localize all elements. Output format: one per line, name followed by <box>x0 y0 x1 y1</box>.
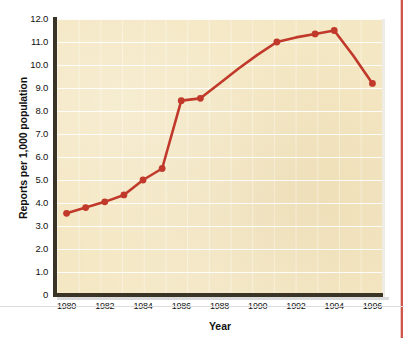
y-tick-label: 1.0 <box>8 266 48 277</box>
y-tick-label: 10.0 <box>8 59 48 70</box>
y-tick-label: 12.0 <box>8 13 48 24</box>
data-series-layer <box>57 19 382 295</box>
y-tick-label: 11.0 <box>8 36 48 47</box>
y-tick-label: 9.0 <box>8 82 48 93</box>
y-tick-label: 6.0 <box>8 151 48 162</box>
plot-area <box>57 19 382 295</box>
y-tick-label: 4.0 <box>8 197 48 208</box>
chart-figure: Reports per 1,000 population Year 12.011… <box>0 0 404 338</box>
chart-title-ghost <box>150 0 360 7</box>
data-point <box>331 27 338 34</box>
data-point <box>121 192 128 199</box>
y-tick-label: 8.0 <box>8 105 48 116</box>
plot-right-shadow <box>382 19 385 297</box>
data-point <box>140 177 147 184</box>
y-tick-label: 5.0 <box>8 174 48 185</box>
y-tick-label: 7.0 <box>8 128 48 139</box>
page-edge-rule-secondary <box>400 0 401 338</box>
data-point <box>312 31 319 38</box>
page-edge-rule <box>401 0 403 338</box>
data-point <box>197 95 204 102</box>
series-line <box>67 31 373 214</box>
data-point <box>273 39 280 46</box>
x-axis-shadow <box>57 297 389 300</box>
data-point <box>63 210 70 217</box>
y-tick-label: 2.0 <box>8 243 48 254</box>
y-tick-label: 3.0 <box>8 220 48 231</box>
x-axis-label: Year <box>57 320 383 332</box>
series-markers <box>63 27 376 217</box>
data-point <box>159 165 166 172</box>
page-baseline-rule <box>0 306 404 307</box>
data-point <box>178 97 185 104</box>
y-tick-label: 0 <box>8 289 48 300</box>
data-point <box>369 80 376 87</box>
data-point <box>101 198 108 205</box>
data-point <box>82 204 89 211</box>
y-axis-line <box>53 17 57 297</box>
